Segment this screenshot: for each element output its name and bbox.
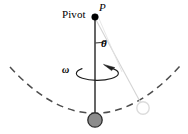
pivot-dot — [92, 14, 99, 21]
conical-pendulum-figure: Pivot P θ ω — [0, 0, 188, 134]
point-p-label: P — [99, 2, 106, 13]
figure-canvas — [0, 0, 188, 134]
ghost-rod — [95, 18, 144, 108]
pendulum-bob — [88, 113, 102, 127]
ghost-bob — [137, 102, 149, 114]
pivot-label: Pivot — [62, 9, 86, 20]
omega-angular-velocity-label: ω — [62, 65, 69, 75]
theta-angle-label: θ — [101, 38, 107, 49]
rotation-arrowhead-icon — [104, 64, 115, 70]
